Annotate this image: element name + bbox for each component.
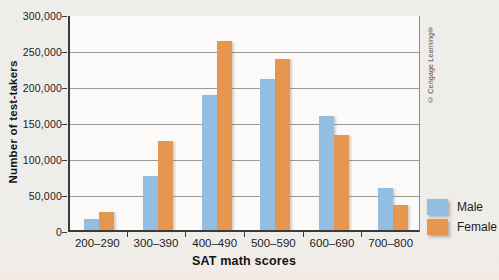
y-tick-mark-0	[62, 232, 67, 233]
y-tick-label-150000: 150,000	[2, 118, 62, 130]
x-tick-mark-3	[244, 232, 245, 237]
x-tick-mark-5	[361, 232, 362, 237]
y-tick-label-300000: 300,000	[2, 10, 62, 22]
bar-female-2	[158, 141, 173, 230]
x-tick-label-6: 700–800	[356, 237, 426, 249]
y-tick-label-0: 0	[2, 226, 62, 238]
bar-male-3	[202, 95, 217, 230]
legend-item-male: Male	[427, 199, 497, 215]
bar-male-4	[260, 79, 275, 230]
gridline-200000	[70, 88, 419, 89]
gridline-50000	[70, 196, 419, 197]
bar-male-2	[143, 176, 158, 230]
legend-item-female: Female	[427, 219, 497, 235]
y-tick-mark-50000	[62, 196, 67, 197]
sat-scores-bar-chart-figure: Number of test-takers SAT math scores Ma…	[0, 0, 499, 280]
x-tick-mark-1	[127, 232, 128, 237]
y-tick-mark-200000	[62, 88, 67, 89]
x-axis-title: SAT math scores	[68, 254, 420, 268]
bar-female-6	[393, 205, 408, 230]
copyright-credit: © Cengage Learning®	[427, 13, 434, 103]
legend: Male Female	[427, 199, 497, 239]
gridline-250000	[70, 52, 419, 53]
y-tick-label-100000: 100,000	[2, 154, 62, 166]
bar-female-3	[217, 41, 232, 230]
y-tick-label-250000: 250,000	[2, 46, 62, 58]
plot-area	[68, 16, 420, 232]
female-legend-label: Female	[457, 220, 497, 234]
y-tick-mark-150000	[62, 124, 67, 125]
x-tick-mark-4	[303, 232, 304, 237]
bar-female-1	[99, 212, 114, 230]
bar-male-6	[378, 188, 393, 230]
y-tick-label-200000: 200,000	[2, 82, 62, 94]
bar-male-5	[319, 116, 334, 230]
y-tick-label-50000: 50,000	[2, 190, 62, 202]
gridline-100000	[70, 160, 419, 161]
female-swatch-icon	[427, 219, 448, 235]
bar-female-5	[334, 135, 349, 230]
y-tick-mark-100000	[62, 160, 67, 161]
gridline-150000	[70, 124, 419, 125]
male-legend-label: Male	[457, 200, 483, 214]
male-swatch-icon	[427, 199, 448, 215]
x-tick-mark-2	[185, 232, 186, 237]
bar-male-1	[84, 219, 99, 230]
bar-female-4	[275, 59, 290, 230]
y-tick-mark-250000	[62, 52, 67, 53]
y-tick-mark-300000	[62, 16, 67, 17]
